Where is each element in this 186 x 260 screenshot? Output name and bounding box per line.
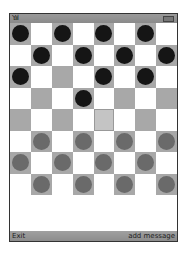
battery-icon [163, 16, 174, 22]
board-square[interactable] [73, 109, 94, 131]
board-square[interactable] [52, 174, 73, 196]
board-square[interactable] [73, 88, 94, 110]
add-message-softkey[interactable]: add message [128, 231, 175, 241]
black-checker-piece[interactable] [116, 47, 133, 64]
gray-checker-piece[interactable] [95, 154, 112, 171]
phone-screen: Y.ııl Exit add message [9, 13, 178, 242]
board-square[interactable] [31, 109, 52, 131]
board-square[interactable] [114, 109, 135, 131]
board-square[interactable] [135, 88, 156, 110]
board-square[interactable] [10, 23, 31, 45]
board-square[interactable] [114, 66, 135, 88]
black-checker-piece[interactable] [12, 25, 29, 42]
board-square[interactable] [94, 174, 115, 196]
board-square[interactable] [31, 174, 52, 196]
gray-checker-piece[interactable] [158, 176, 175, 193]
gray-checker-piece[interactable] [137, 154, 154, 171]
board-square[interactable] [135, 66, 156, 88]
board-square[interactable] [73, 66, 94, 88]
selected-square[interactable] [94, 109, 115, 131]
status-bar: Y.ııl [10, 14, 177, 23]
black-checker-piece[interactable] [12, 68, 29, 85]
board-square[interactable] [156, 152, 177, 174]
board-square[interactable] [52, 23, 73, 45]
board-square[interactable] [156, 174, 177, 196]
board-square[interactable] [156, 88, 177, 110]
board-square[interactable] [10, 174, 31, 196]
board-square[interactable] [73, 131, 94, 153]
exit-softkey[interactable]: Exit [12, 231, 25, 241]
board-square[interactable] [135, 23, 156, 45]
board-square[interactable] [135, 174, 156, 196]
board-square[interactable] [135, 152, 156, 174]
signal-icon: Y.ııl [12, 15, 18, 22]
gray-checker-piece[interactable] [12, 154, 29, 171]
gray-checker-piece[interactable] [75, 133, 92, 150]
gray-checker-piece[interactable] [54, 154, 71, 171]
board-square[interactable] [114, 131, 135, 153]
board-square[interactable] [10, 66, 31, 88]
board-square[interactable] [94, 152, 115, 174]
board-square[interactable] [156, 23, 177, 45]
board-square[interactable] [31, 131, 52, 153]
board-square[interactable] [114, 174, 135, 196]
board-square[interactable] [94, 88, 115, 110]
black-checker-piece[interactable] [95, 68, 112, 85]
gray-checker-piece[interactable] [33, 176, 50, 193]
board-square[interactable] [10, 131, 31, 153]
black-checker-piece[interactable] [75, 90, 92, 107]
board-square[interactable] [156, 66, 177, 88]
board-square[interactable] [52, 152, 73, 174]
board-square[interactable] [135, 45, 156, 67]
black-checker-piece[interactable] [33, 47, 50, 64]
board-square[interactable] [135, 109, 156, 131]
board-square[interactable] [31, 45, 52, 67]
board-square[interactable] [52, 88, 73, 110]
board-square[interactable] [73, 174, 94, 196]
board-square[interactable] [94, 23, 115, 45]
gray-checker-piece[interactable] [33, 133, 50, 150]
board-square[interactable] [94, 131, 115, 153]
board-square[interactable] [73, 23, 94, 45]
board-square[interactable] [52, 131, 73, 153]
gray-checker-piece[interactable] [116, 133, 133, 150]
board-square[interactable] [94, 45, 115, 67]
gray-checker-piece[interactable] [158, 133, 175, 150]
board-square[interactable] [52, 109, 73, 131]
board-square[interactable] [52, 66, 73, 88]
board-square[interactable] [73, 152, 94, 174]
board-square[interactable] [73, 45, 94, 67]
board-square[interactable] [114, 88, 135, 110]
softkey-bar: Exit add message [10, 231, 177, 241]
board-square[interactable] [31, 66, 52, 88]
black-checker-piece[interactable] [137, 68, 154, 85]
board-square[interactable] [10, 88, 31, 110]
board-square[interactable] [10, 45, 31, 67]
board-square[interactable] [114, 45, 135, 67]
board-square[interactable] [114, 23, 135, 45]
gray-checker-piece[interactable] [116, 176, 133, 193]
board-square[interactable] [156, 109, 177, 131]
black-checker-piece[interactable] [54, 25, 71, 42]
black-checker-piece[interactable] [137, 25, 154, 42]
board-square[interactable] [31, 152, 52, 174]
board-square[interactable] [31, 88, 52, 110]
gray-checker-piece[interactable] [75, 176, 92, 193]
board-square[interactable] [156, 131, 177, 153]
black-checker-piece[interactable] [75, 47, 92, 64]
board-square[interactable] [94, 66, 115, 88]
black-checker-piece[interactable] [95, 25, 112, 42]
black-checker-piece[interactable] [158, 47, 175, 64]
board-square[interactable] [10, 152, 31, 174]
board-square[interactable] [135, 131, 156, 153]
board-square[interactable] [10, 109, 31, 131]
board-square[interactable] [52, 45, 73, 67]
board-square[interactable] [31, 23, 52, 45]
checkers-board[interactable] [10, 23, 177, 195]
board-square[interactable] [114, 152, 135, 174]
board-square[interactable] [156, 45, 177, 67]
